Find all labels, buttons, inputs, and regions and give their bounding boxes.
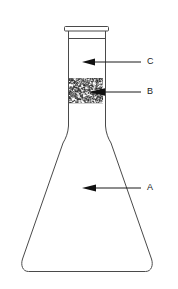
granule-dot [75,87,77,89]
granule-dot [90,80,91,81]
granule-dot [69,92,70,93]
granule-dot [89,101,90,102]
callout-c-label: C [147,56,154,66]
granule-dot [89,80,90,81]
granule-dot [93,88,94,89]
granule-dot [96,96,97,97]
granule-dot [77,101,78,102]
granule-dot [90,84,91,85]
granule-dot [73,97,74,98]
granule-dot [89,83,90,84]
granule-dot [86,91,87,92]
granule-dot [83,97,84,98]
granule-dot [82,96,83,97]
figure-container: C B A [0,0,178,289]
granule-dot [75,90,76,91]
granule-dot [94,81,95,82]
granule-dot [74,94,75,95]
granule-dot [86,84,87,85]
granule-dot [78,89,80,91]
granule-dot [93,86,94,87]
granule-dot [77,85,78,86]
granule-dot [73,87,74,88]
granule-dot [73,89,74,90]
granule-dot [100,80,101,81]
granule-dot [100,87,101,88]
granule-dot [72,89,74,91]
granule-dot [81,82,82,83]
granule-dot [90,93,92,95]
granule-dot [79,92,80,93]
granule-dot [83,90,84,91]
granule-dot [92,88,94,90]
granule-dot [84,87,85,88]
granule-dot [92,98,93,99]
granule-dot [86,94,87,95]
granule-dot [87,94,88,95]
granule-dot [78,92,79,93]
granule-dot [81,94,82,95]
granule-dot [80,101,81,102]
granule-dot [74,86,76,88]
granule-dot [101,100,102,101]
granule-dot [97,88,98,89]
granule-dot [95,87,97,89]
granule-dot [72,98,73,99]
granule-dot [70,86,71,87]
granule-dot [91,83,92,84]
granule-dot [78,88,79,89]
granule-dot [85,100,87,102]
granule-dot [94,96,95,97]
granule-dot [87,88,88,89]
granule-dot [98,102,99,103]
granule-dot [92,94,93,95]
granule-dot [82,89,83,90]
granule-dot [89,88,90,89]
flask-rim [65,27,109,32]
granule-dot [81,97,82,98]
granule-dot [76,83,77,84]
granule-dot [88,92,90,94]
granule-dot [79,86,80,87]
granule-dot [102,81,103,82]
granule-dot [76,91,77,92]
granule-dot [88,95,89,96]
granule-dot [98,94,99,95]
granule-dot [90,81,91,82]
callout-a-arrowhead [82,184,96,191]
granule-dot [77,86,78,87]
granule-dot [85,83,86,84]
granule-dot [94,98,95,99]
granule-dot [86,80,87,81]
granule-dot [78,87,79,88]
granule-dot [93,85,94,86]
granule-dot [75,81,77,83]
granule-dot [70,80,71,81]
callout-a: A [82,182,153,192]
granule-dot [92,81,93,82]
granule-dot [71,86,72,87]
granule-dot [90,96,92,98]
granule-dot [78,83,79,84]
granule-dot [89,98,90,99]
granule-dot [77,87,78,88]
granule-dot [89,95,90,96]
granule-dot [98,98,99,99]
granule-dot [74,82,75,83]
granule-dot [95,80,96,81]
conical-body-outline [22,31,153,272]
granule-dot [84,82,85,83]
granule-dot [101,95,102,96]
granule-dot [87,96,88,97]
granule-dot [81,79,82,80]
granule-dot [83,94,84,95]
granule-dot [102,86,103,87]
granule-dot [80,82,81,83]
granule-dot [80,84,81,85]
granule-dot [77,98,79,100]
granule-dot [76,100,77,101]
granule-dot [70,98,71,99]
granule-dot [95,83,96,84]
granule-dot [98,85,99,86]
granule-dot [85,87,86,88]
